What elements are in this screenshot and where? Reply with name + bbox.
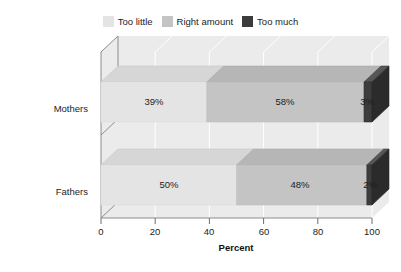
bar-segment-too-little-top (101, 66, 224, 82)
x-tick-label-20: 20 (145, 226, 165, 237)
x-tick-label-60: 60 (254, 226, 274, 237)
x-tick-label-40: 40 (199, 226, 219, 237)
x-tick-label-0: 0 (91, 226, 111, 237)
category-label-fathers: Fathers (12, 186, 88, 197)
bar-value-fathers-too-little: 50% (149, 179, 189, 190)
bar-value-mothers-right-amount: 58% (265, 96, 305, 107)
category-label-mothers: Mothers (12, 103, 88, 114)
x-tick-label-100: 100 (360, 226, 384, 237)
chart-container: Too little Right amount Too much Mothers… (0, 0, 401, 272)
bar-group-mothers (101, 66, 389, 122)
bar-value-fathers-right-amount: 48% (280, 179, 320, 190)
x-axis-title: Percent (186, 242, 286, 253)
bar-value-mothers-too-much: 3% (352, 96, 382, 107)
bar-group-fathers (101, 149, 389, 205)
axis-ticks (101, 218, 372, 224)
bar-value-mothers-too-little: 39% (134, 96, 174, 107)
bar-segment-right-amount-top (207, 66, 381, 82)
bar-segment-right-amount-top (237, 149, 384, 165)
x-tick-label-80: 80 (308, 226, 328, 237)
bar-segment-too-little-top (101, 149, 254, 165)
bar-value-fathers-too-much: 2% (355, 179, 385, 190)
